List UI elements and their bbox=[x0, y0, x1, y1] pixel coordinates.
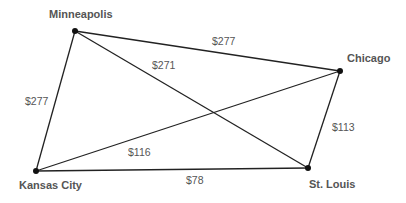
label-kansas-city: Kansas City bbox=[19, 179, 82, 191]
label-minneapolis: Minneapolis bbox=[49, 8, 113, 20]
cost-minneapolis-chicago: $277 bbox=[212, 35, 235, 47]
node-kansas-city bbox=[33, 168, 39, 174]
node-minneapolis bbox=[72, 28, 78, 34]
edge-minneapolis-st-louis bbox=[75, 31, 308, 168]
edge-kansas-city-st-louis bbox=[36, 168, 308, 171]
cost-kansas-city-chicago: $116 bbox=[128, 146, 151, 158]
cost-minneapolis-st-louis: $271 bbox=[152, 59, 175, 71]
node-st-louis bbox=[305, 165, 311, 171]
label-chicago: Chicago bbox=[347, 52, 390, 64]
edge-minneapolis-chicago bbox=[75, 31, 340, 71]
node-chicago bbox=[337, 68, 343, 74]
graph-canvas bbox=[0, 0, 406, 203]
edge-kansas-city-chicago bbox=[36, 71, 340, 171]
cost-minneapolis-kansas-city: $277 bbox=[25, 95, 48, 107]
edge-chicago-st-louis bbox=[308, 71, 340, 168]
cost-chicago-st-louis: $113 bbox=[332, 121, 355, 133]
label-st-louis: St. Louis bbox=[309, 178, 355, 190]
cost-kansas-city-st-louis: $78 bbox=[186, 174, 204, 186]
